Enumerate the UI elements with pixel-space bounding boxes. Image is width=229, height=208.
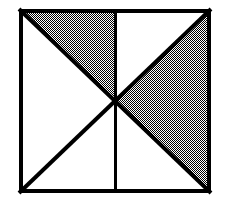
shaded-square-diagram xyxy=(0,0,229,208)
figure-canvas xyxy=(0,0,229,208)
